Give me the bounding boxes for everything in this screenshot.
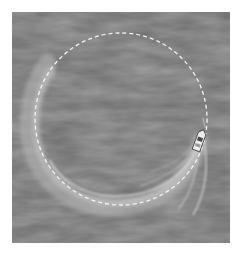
boat-wake-scene: [0, 0, 241, 255]
